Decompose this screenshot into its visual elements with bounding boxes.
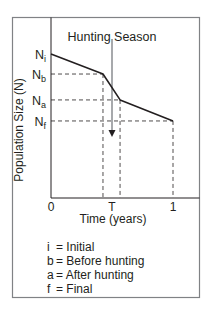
- legend-key-a: a: [47, 268, 54, 282]
- legend-key-i: i: [47, 240, 50, 254]
- y-tick-subscript: i: [44, 54, 46, 64]
- y-tick-main: N: [32, 68, 41, 82]
- legend-key-b: b: [47, 254, 54, 268]
- legend-text-a: = After hunting: [56, 268, 134, 282]
- chart-title: Hunting Season: [68, 30, 157, 44]
- legend-text-f: = Final: [56, 282, 92, 296]
- legend-text-b: = Before hunting: [56, 254, 144, 268]
- y-tick-subscript: a: [41, 100, 46, 110]
- y-tick-main: N: [32, 94, 41, 108]
- y-tick-main: N: [35, 48, 44, 62]
- y-axis-label: Population Size (N): [12, 78, 26, 181]
- x-tick-label-2: 1: [170, 200, 177, 214]
- x-axis-label: Time (years): [80, 212, 147, 226]
- chart-root: Hunting Season NiNbNaNf 0T1 Time (years)…: [0, 0, 208, 312]
- x-tick-label-0: 0: [48, 200, 55, 214]
- y-tick-main: N: [34, 115, 43, 129]
- y-tick-subscript: b: [41, 74, 46, 84]
- legend-text-i: = Initial: [56, 240, 94, 254]
